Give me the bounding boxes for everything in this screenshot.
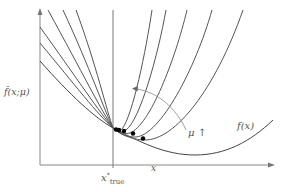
fhat-curve-5 [76, 10, 152, 131]
fhat-curve-4 [63, 10, 166, 132]
fhat-curve-2 [40, 10, 212, 137]
x-true-label: x*true [101, 171, 124, 186]
minimizer-dot [141, 136, 145, 140]
fhat-curve-3 [48, 10, 187, 133]
y-axis-arrow-icon [38, 8, 43, 15]
minimizer-dot [122, 129, 126, 133]
mu-increase-label: μ ↑ [188, 127, 206, 138]
f-curve-label: f(x) [237, 120, 254, 131]
fhat-curve-1 [40, 10, 243, 140]
diagram-root: f̂(x;μ) x*true x μ ↑ f(x) [0, 0, 291, 192]
minimizer-dot [131, 131, 135, 135]
mu-arrow-head-icon [132, 86, 138, 92]
diagram-canvas [0, 0, 291, 192]
minimizer-dot [117, 128, 121, 132]
x-axis-arrow-icon [268, 163, 275, 168]
x-true-sub: true [110, 178, 125, 186]
x-true-sup: * [107, 171, 110, 178]
y-axis-label: f̂(x;μ) [4, 86, 30, 97]
f-true-curve [40, 61, 273, 155]
x-axis-label: x [151, 163, 156, 173]
